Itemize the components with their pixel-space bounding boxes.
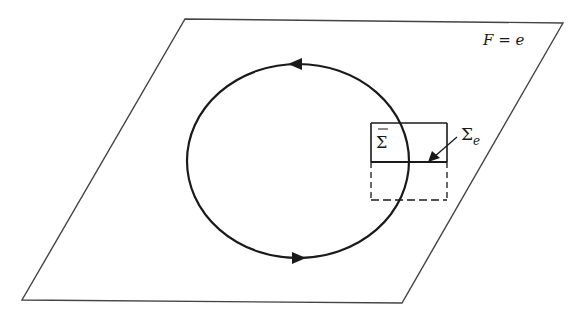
sigma-e-label: Σe [461,124,480,148]
sigma-bar-label: Σ [376,133,387,152]
plane-label: F = e [482,31,525,49]
sigma-e-pointer [434,137,457,157]
arrow-left-icon [288,58,302,70]
arrow-right-icon [292,252,306,264]
diagram-canvas: F = e Σ Σe [0,0,582,320]
